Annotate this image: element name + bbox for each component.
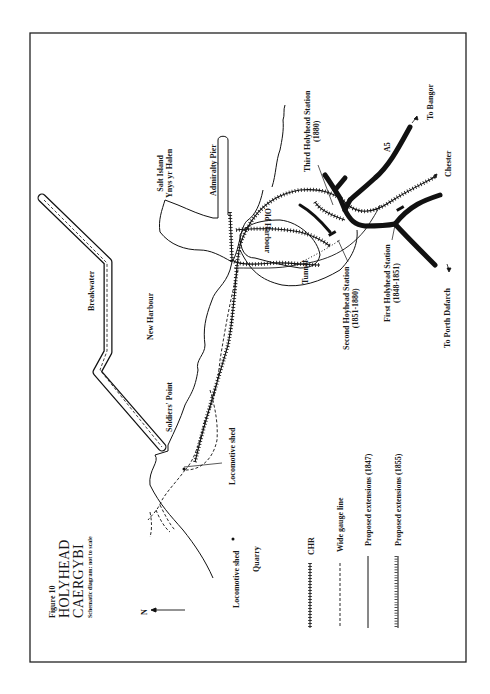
figure-subtitle: Schematic diagram: not to scale [86,536,94,618]
label-breakwater: Breakwater [87,271,96,311]
first-station-marker [396,205,404,212]
label-quarry: Quarry [252,546,261,572]
label-third-station: Third Holyhead Station (1880) [303,91,321,172]
label-a5: A5 [383,142,392,152]
label-to-porth-dafarch: To Porth Dafarch [443,288,452,348]
figure-frame [30,33,466,662]
figure-title-block: Figure 10 HOLYHEAD CAERGYBI Schematic di… [48,536,94,618]
legend-label-chr: CHR [307,537,316,555]
label-second-station: Second Hoyhead Station (1851-1880) [342,266,360,350]
locomotive-shed-marker-1 [183,468,186,471]
legend-label-proposed-1855: Proposed extensions (1855) [394,454,403,546]
legend-label-wide-gauge: Wide gauge line [336,497,345,552]
label-locomotive-shed-2: Locomotive shed [232,550,241,608]
label-to-bangor: To Bangor [426,84,435,120]
main-road-lines [300,127,440,265]
figure-title-line2: CAERGYBI [72,536,86,618]
legend-symbols [310,556,398,628]
label-first-station: First Holyhead Station (1848-1851) [383,244,401,322]
north-label: N [140,609,149,615]
label-old-harbour: Old Harbour [263,208,272,253]
label-chester: Chester [444,150,453,177]
label-admiralty-pier: Admiralty Pier [209,144,218,196]
label-locomotive-shed-1: Locomotive shed [228,427,237,485]
wide-gauge-lines [148,270,238,537]
breakwater [42,198,162,447]
label-soldiers-point: Soldiers' Point [165,382,174,432]
locomotive-shed-marker-2 [232,538,235,541]
label-tunnel: Tunnel [301,260,310,284]
label-new-harbour: New Harbour [146,293,155,340]
label-salt-island: Salt Island Ynys yr Halen [156,149,174,198]
leader-lines [184,165,395,467]
figure-title-line1: HOLYHEAD [58,536,72,618]
legend-label-proposed-1847: Proposed extensions (1847) [364,454,373,546]
north-arrow-icon [151,608,185,612]
